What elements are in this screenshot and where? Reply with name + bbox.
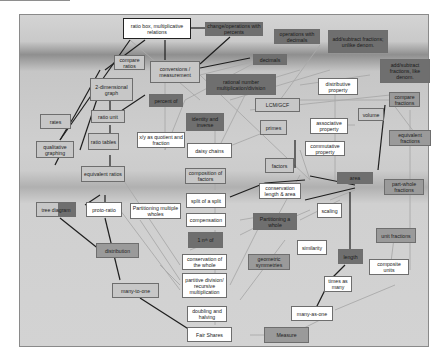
node-partitioning-multiple-wholes[interactable]: Partitioning multiple wholes <box>130 203 181 219</box>
node-length[interactable]: length <box>338 249 363 264</box>
node-identity-inverse[interactable]: identity and inverse <box>186 113 224 131</box>
node-percent-of[interactable]: percent of <box>149 94 183 107</box>
node-lcm-gcf[interactable]: LCM/GCF <box>255 98 300 112</box>
node-unit-fractions[interactable]: unit fractions <box>376 228 416 243</box>
node-primes[interactable]: primes <box>260 120 287 135</box>
node-many-as-one[interactable]: many-as-one <box>291 306 333 321</box>
node-2d-graph[interactable]: 2-dimensional graph <box>90 78 133 101</box>
node-add-like-denom[interactable]: add/subtract fractions, like denom. <box>380 59 430 83</box>
node-ratio-box[interactable]: ratio box, multiplicative relations <box>123 18 191 39</box>
node-factors[interactable]: factors <box>265 158 294 173</box>
node-compensation[interactable]: compensation <box>186 213 226 227</box>
node-distribution[interactable]: distribution <box>96 243 139 258</box>
node-conversions-measurement[interactable]: conversions / measurement <box>150 61 200 83</box>
node-rates[interactable]: rates <box>40 114 71 129</box>
node-add-unlike-denom[interactable]: add/subtract fractions; unlike denom. <box>328 30 388 53</box>
node-daisy-chains[interactable]: daisy chains <box>187 143 232 158</box>
node-qualitative-graphing[interactable]: qualitative graphing <box>36 141 74 158</box>
node-one-nth-of[interactable]: 1 nᵗʰ of <box>188 232 223 248</box>
node-many-to-one[interactable]: many-to-one <box>112 283 159 298</box>
node-decimals[interactable]: decimals <box>253 54 287 65</box>
node-measure[interactable]: Measure <box>264 327 309 343</box>
node-ratio-tables[interactable]: ratio tables <box>88 133 119 150</box>
node-split-of-split[interactable]: split of a split <box>186 193 226 208</box>
node-rational-number-mult[interactable]: rational number multiplication/division <box>206 74 276 95</box>
node-conservation-length-area[interactable]: conservation length & area <box>259 183 301 199</box>
node-times-as-many[interactable]: times as many <box>324 276 352 292</box>
node-scaling[interactable]: scaling <box>317 203 342 218</box>
node-part-whole-fractions[interactable]: part-whole fractions <box>384 179 424 195</box>
node-geometric-symmetries[interactable]: geometric symmetries <box>248 254 290 270</box>
node-composite-units[interactable]: composite units <box>369 259 409 275</box>
node-tree-diagram[interactable]: tree diagram <box>36 202 76 217</box>
node-partitive-division[interactable]: partitive division/ recursive multiplica… <box>182 273 227 298</box>
node-doubling-halving[interactable]: doubling and halving <box>187 306 227 322</box>
node-fair-shares[interactable]: Fair Shares <box>187 327 232 342</box>
node-compare-ratios[interactable]: compare ratios <box>114 55 145 70</box>
node-distributive-property[interactable]: distributive property <box>318 78 358 95</box>
node-change-percents[interactable]: change/operations with percents <box>205 22 263 36</box>
node-equivalent-ratios[interactable]: equivalent ratios <box>81 166 125 182</box>
node-associative-property[interactable]: associative property <box>310 118 348 134</box>
node-area[interactable]: area <box>337 172 373 184</box>
node-ratio-unit[interactable]: ratio unit <box>91 110 125 123</box>
node-composition-factors[interactable]: composition of factors <box>185 168 226 184</box>
node-xy-quotient-fraction[interactable]: x/y as quotient and fraction <box>137 132 185 148</box>
node-compare-fractions[interactable]: compare fractions <box>389 92 420 107</box>
node-conservation-of-whole[interactable]: conservation of the whole <box>182 254 227 270</box>
node-similarity[interactable]: similarity <box>297 240 327 255</box>
node-equivalent-fractions[interactable]: equivalent fractions <box>389 130 431 146</box>
node-commutative-property[interactable]: commutative property <box>305 141 345 156</box>
node-proto-ratio[interactable]: proto-ratio <box>86 202 122 217</box>
concept-map: ratio box, multiplicative relations chan… <box>0 0 448 361</box>
node-partitioning-whole[interactable]: Partitioning a whole <box>253 213 297 230</box>
node-volume[interactable]: volume <box>358 108 384 121</box>
node-operations-decimals[interactable]: operations with decimals <box>274 29 320 44</box>
